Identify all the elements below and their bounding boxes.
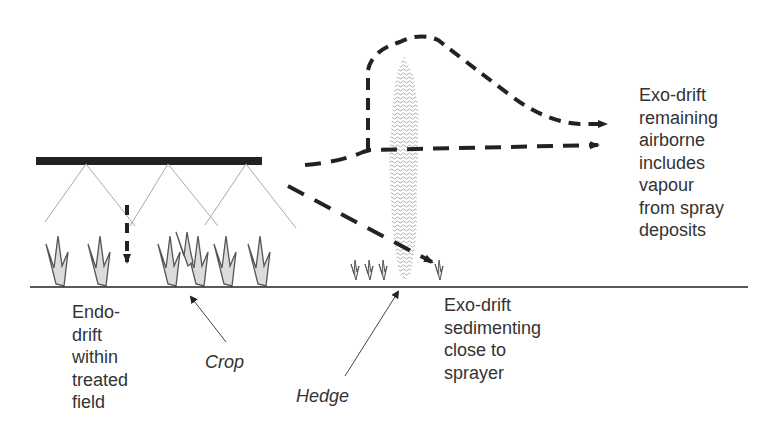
crop-plants — [46, 232, 270, 286]
sprayer-boom — [36, 157, 262, 165]
spray-fans — [45, 164, 296, 228]
exo-drift-airborne-label: Exo-drift remaining airborne includes va… — [639, 84, 724, 242]
hedge-pointer — [345, 292, 398, 376]
hedge-label: Hedge — [296, 385, 349, 408]
crop-label: Crop — [205, 351, 244, 374]
crop-pointer — [191, 297, 226, 342]
exo-drift-sediment-label: Exo-drift sedimenting close to sprayer — [444, 294, 541, 384]
exo-drift-airborne-arrow-low — [305, 145, 598, 165]
endo-drift-label: Endo- drift within treated field — [72, 301, 128, 414]
hedge-side-plants — [351, 260, 443, 280]
